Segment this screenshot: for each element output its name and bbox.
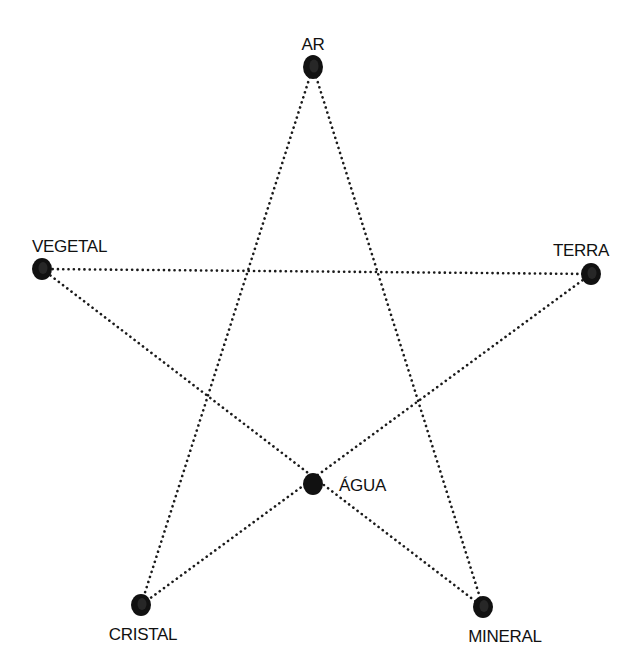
nodes-group: [32, 55, 601, 618]
label-agua: ÁGUA: [339, 476, 387, 495]
edges-group: [42, 67, 591, 607]
node-texture-ar: [310, 59, 319, 72]
edge-ar-cristal: [141, 67, 313, 605]
node-texture-vegetal: [39, 262, 48, 274]
node-texture-terra: [588, 267, 597, 279]
label-ar: AR: [301, 35, 324, 54]
edge-terra-cristal: [141, 274, 591, 605]
node-texture-cristal: [138, 598, 147, 610]
star-diagram: ARVEGETALTERRAÁGUACRISTALMINERAL: [0, 0, 631, 671]
labels-group: ARVEGETALTERRAÁGUACRISTALMINERAL: [32, 35, 610, 646]
label-mineral: MINERAL: [468, 627, 541, 646]
node-texture-mineral: [480, 600, 489, 612]
label-vegetal: VEGETAL: [32, 237, 107, 256]
label-terra: TERRA: [553, 241, 610, 260]
edge-vegetal-mineral: [42, 269, 483, 607]
label-cristal: CRISTAL: [109, 625, 177, 644]
node-agua: [303, 473, 323, 495]
edge-vegetal-terra: [42, 269, 591, 274]
edge-ar-mineral: [313, 67, 483, 607]
